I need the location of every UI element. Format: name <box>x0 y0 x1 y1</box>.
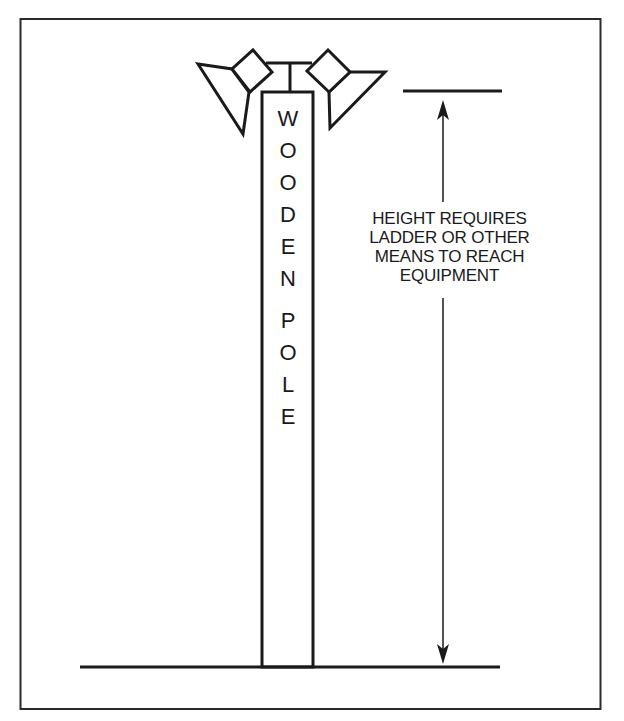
annotation-line: MEANS TO REACH <box>352 247 547 266</box>
pole-letter: E <box>262 406 314 428</box>
pole-letter: W <box>262 108 314 130</box>
annotation-line: LADDER OR OTHER <box>352 228 547 247</box>
annotation-line: HEIGHT REQUIRES <box>352 209 547 228</box>
fixture-mount <box>266 63 312 92</box>
pole-letter: D <box>262 204 314 226</box>
annotation-line: EQUIPMENT <box>352 266 547 285</box>
pole-letter: E <box>262 236 314 258</box>
pole-letter: N <box>262 268 314 290</box>
pole-lighting-diagram: W O O D E N P O L E HEIGHT REQUIRES LADD… <box>0 0 624 721</box>
right-light-fixture-icon <box>307 50 385 128</box>
pole-letter: O <box>262 342 314 364</box>
pole-letter: P <box>262 310 314 332</box>
pole-letter: L <box>262 374 314 396</box>
pole-letter: O <box>262 172 314 194</box>
height-annotation: HEIGHT REQUIRES LADDER OR OTHER MEANS TO… <box>352 209 547 285</box>
height-dimension-arrow-icon <box>437 100 449 664</box>
pole-letter: O <box>262 140 314 162</box>
